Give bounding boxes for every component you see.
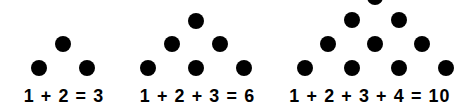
equation-label-3: 1 + 2 + 3 + 4 = 10 xyxy=(273,86,467,105)
triangle-group-3: 1 + 2 + 3 + 4 = 10 xyxy=(267,0,473,109)
dot xyxy=(212,36,228,52)
dot xyxy=(391,60,407,76)
dot xyxy=(297,60,313,76)
dot xyxy=(344,12,360,28)
dot xyxy=(188,60,204,76)
dot xyxy=(367,0,383,5)
triangular-numbers-figure: 1 + 2 = 3 1 + 2 + 3 = 6 1 + 2 + 3 + 4 = … xyxy=(0,0,473,109)
dot xyxy=(344,60,360,76)
dot xyxy=(188,13,204,29)
dot xyxy=(79,60,95,76)
dot xyxy=(438,60,454,76)
equation-label-2: 1 + 2 + 3 = 6 xyxy=(132,86,263,105)
triangle-group-1: 1 + 2 = 3 xyxy=(0,0,128,109)
dot xyxy=(236,60,252,76)
dot xyxy=(367,36,383,52)
dot xyxy=(320,36,336,52)
dot xyxy=(140,60,156,76)
equation-label-1: 1 + 2 = 3 xyxy=(4,86,124,105)
dot xyxy=(55,36,71,52)
dot xyxy=(414,36,430,52)
dot xyxy=(164,36,180,52)
dot xyxy=(31,60,47,76)
dot xyxy=(391,12,407,28)
triangle-group-2: 1 + 2 + 3 = 6 xyxy=(128,0,267,109)
